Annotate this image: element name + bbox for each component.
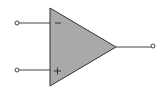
inverting-input-terminal [15,21,19,25]
op-amp-triangle [50,8,116,86]
non-inverting-input-terminal [15,68,19,72]
op-amp-diagram [0,0,164,90]
output-terminal [151,44,155,48]
